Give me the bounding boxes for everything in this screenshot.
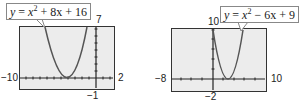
- eq-rest: − 6x + 9: [254, 8, 295, 22]
- parabola-right: [213, 30, 243, 79]
- equation-callout-right: y = x2 − 6x + 9: [220, 6, 299, 23]
- ymax-label-right: 10: [208, 17, 219, 27]
- eq-equals: =: [232, 8, 239, 22]
- eq-exponent: 2: [247, 7, 251, 16]
- xmin-label-right: −8: [155, 74, 166, 84]
- ymin-label-right: −2: [205, 92, 216, 102]
- eq-y: y: [224, 8, 229, 22]
- xmax-label-right: 10: [271, 74, 282, 84]
